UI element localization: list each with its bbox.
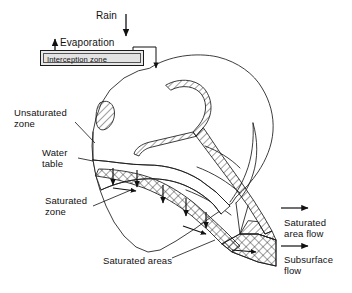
water-table-label: Water table — [42, 148, 67, 169]
saturated-areas-label: Saturated areas — [103, 256, 172, 267]
leader-unsaturated — [75, 122, 95, 143]
leader-saturated-areas — [172, 240, 215, 258]
evaporation-label: Evaporation — [60, 38, 114, 49]
stream-tributary-stem — [134, 132, 196, 156]
subsurface-flow-label: Subsurface flow — [284, 255, 333, 276]
groundwater-arrow — [183, 226, 206, 234]
leader-saturated-zone — [93, 190, 131, 206]
saturated-area-flow-label: Saturated area flow — [284, 218, 326, 239]
unsaturated-zone-label: Unsaturated zone — [14, 108, 67, 129]
saturated-zone-label: Saturated zone — [45, 196, 87, 217]
outlet-face-edge — [236, 203, 240, 234]
leader-water-table — [78, 158, 93, 161]
stream-tributary-upper — [166, 80, 211, 136]
groundwater-arrow — [113, 188, 136, 191]
interception-zone-label: Interception zone — [47, 55, 107, 66]
stream-head-left — [96, 101, 115, 130]
rain-label: Rain — [96, 11, 117, 22]
